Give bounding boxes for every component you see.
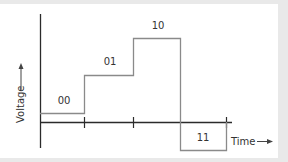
arrow-right-icon (267, 139, 273, 144)
arrow-up-icon (19, 63, 24, 69)
level-label-00: 00 (58, 95, 71, 106)
level-label-11: 11 (197, 132, 210, 143)
y-axis-label: Voltage (15, 85, 26, 123)
voltage-time-diagram: 00 01 10 11 Voltage Time (0, 0, 288, 162)
level-label-01: 01 (104, 56, 117, 67)
level-label-10: 10 (152, 20, 165, 31)
x-axis-label: Time (230, 136, 255, 147)
